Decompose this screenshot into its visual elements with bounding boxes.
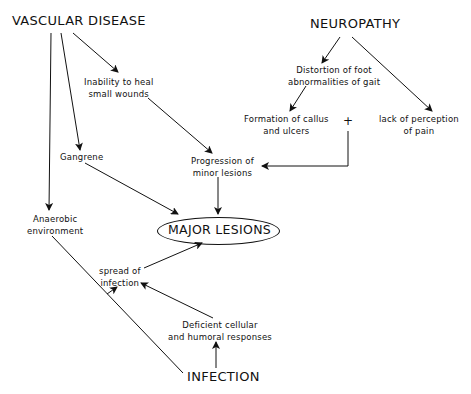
node-progression-minor-lesions: Progression of minor lesions bbox=[191, 155, 254, 179]
line-anaerobic-to-infection bbox=[52, 236, 183, 373]
node-inability-to-heal: Inability to heal small wounds bbox=[84, 76, 153, 100]
arrow-inability-to-progression bbox=[148, 98, 212, 153]
node-spread-of-infection: spread of infection bbox=[99, 265, 141, 289]
node-anaerobic-environment: Anaerobic environment bbox=[27, 213, 83, 237]
node-deficient-responses: Deficient cellular and humoral responses bbox=[168, 319, 272, 343]
arrow-gangrene-to-major bbox=[85, 163, 178, 214]
node-lack-of-perception: lack of perception of pain bbox=[379, 113, 459, 137]
arrow-spread-to-major bbox=[144, 243, 202, 268]
node-vascular-disease: VASCULAR DISEASE bbox=[12, 15, 146, 27]
plus-symbol: + bbox=[343, 115, 353, 127]
node-infection: INFECTION bbox=[187, 371, 260, 383]
arrow-distortion-to-callus bbox=[290, 86, 306, 111]
node-neuropathy: NEUROPATHY bbox=[310, 18, 400, 30]
node-gangrene: Gangrene bbox=[60, 151, 103, 163]
arrow-vascular-to-inability bbox=[73, 33, 118, 72]
node-formation-of-callus: Formation of callus and ulcers bbox=[244, 113, 329, 137]
arrow-deficient-to-spread bbox=[141, 283, 213, 318]
node-major-lesions: MAJOR LESIONS bbox=[168, 224, 271, 236]
arrow-neuropathy-to-distortion bbox=[322, 37, 340, 63]
arrow-vascular-to-anaerobic bbox=[49, 33, 51, 210]
arrow-vascular-to-gangrene bbox=[61, 33, 80, 150]
node-distortion-of-foot: Distortion of foot abnormalities of gait bbox=[288, 64, 380, 88]
